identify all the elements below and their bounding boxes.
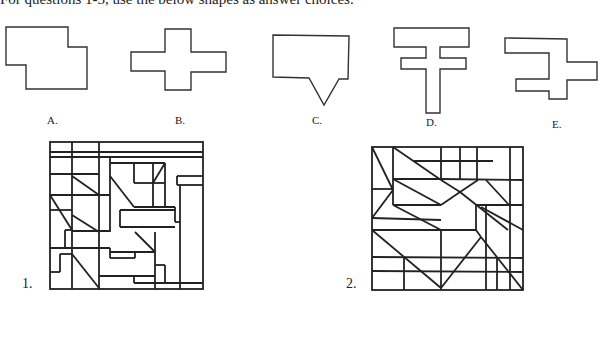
choice-label-d: D. (426, 116, 437, 128)
choice-label-c: C. (312, 114, 322, 126)
shape-d (394, 28, 469, 113)
puzzle-number-2: 2. (346, 276, 357, 292)
choice-label-b: B. (175, 114, 185, 126)
puzzle-2-figure (372, 147, 523, 290)
shape-e (505, 38, 597, 99)
puzzle-1-figure (50, 142, 203, 289)
figures-canvas (0, 0, 599, 349)
shape-b (131, 29, 226, 90)
choice-label-a: A. (47, 114, 58, 126)
shape-a (6, 27, 87, 89)
shape-c (273, 35, 349, 105)
puzzle-number-1: 1. (22, 276, 33, 292)
choice-label-e: E. (552, 118, 561, 130)
